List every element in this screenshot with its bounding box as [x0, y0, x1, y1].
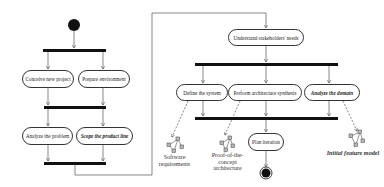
activity-analyze-domain[interactable]: Analyze the domain: [304, 84, 360, 101]
activity-define[interactable]: Define the system: [176, 84, 228, 101]
join-bar-right: [195, 117, 338, 120]
fork-bar-1: [43, 49, 106, 52]
activity-conceive[interactable]: Conceive new project: [22, 70, 74, 88]
artifact-icon-feature-model: [349, 130, 365, 147]
activity-prepare[interactable]: Prepare environment: [78, 70, 130, 88]
activity-scope[interactable]: Scope the product line: [76, 127, 133, 145]
artifact-icon-software: [167, 137, 184, 153]
activity-understand[interactable]: Understand stakeholders' needs: [228, 29, 304, 46]
initial-node: [68, 19, 80, 31]
join-bar-2: [44, 162, 106, 165]
join-bar-1: [44, 106, 106, 109]
activity-plan[interactable]: Plan iteration: [248, 133, 284, 151]
fork-bar-right: [195, 63, 338, 66]
artifact-initial-feature-model: Initial feature model: [318, 150, 384, 157]
artifact-proof-of-concept: Proof-of-the- concept architecture: [205, 152, 250, 172]
activity-perform[interactable]: Perform architecture synthesis: [228, 84, 302, 101]
artifact-software-requirements: Software requirements: [152, 154, 197, 167]
activity-analyze-problem[interactable]: Analyze the problem: [22, 127, 73, 145]
artifact-icon-proof: [220, 136, 235, 152]
